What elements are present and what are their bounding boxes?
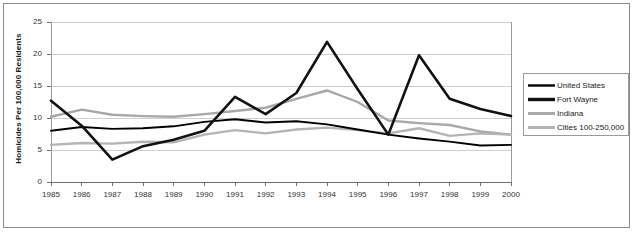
x-tick-label-1992: 1992: [249, 190, 283, 199]
y-tick-label-5: 5: [20, 145, 42, 154]
legend-label-indiana: Indiana: [557, 109, 583, 118]
x-tick-label-1993: 1993: [279, 190, 313, 199]
x-tick-label-1986: 1986: [65, 190, 99, 199]
legend-swatch-indiana: [528, 108, 555, 119]
x-tick-label-1987: 1987: [95, 190, 129, 199]
y-tick-label-20: 20: [20, 49, 42, 58]
y-tick-label-10: 10: [20, 113, 42, 122]
y-tick-label-25: 25: [20, 17, 42, 26]
y-tick-label-15: 15: [20, 81, 42, 90]
legend-item-united-states: United States: [528, 78, 625, 92]
x-tick-label-1999: 1999: [463, 190, 497, 199]
legend-label-united-states: United States: [557, 81, 605, 90]
series-line-cities-100-250-000: [51, 128, 511, 145]
legend-swatch-united-states: [528, 80, 555, 91]
chart-legend: United States Fort Wayne Indiana Cities …: [523, 73, 629, 136]
legend-item-indiana: Indiana: [528, 106, 625, 120]
x-tick-label-1995: 1995: [341, 190, 375, 199]
x-tick-label-1988: 1988: [126, 190, 160, 199]
x-tick-label-1997: 1997: [402, 190, 436, 199]
y-tick-label-0: 0: [20, 177, 42, 186]
x-tick-label-2000: 2000: [494, 190, 528, 199]
y-axis-title: Homicides Per 100,000 Residents: [14, 19, 23, 179]
x-tick-label-1989: 1989: [157, 190, 191, 199]
legend-label-fort-wayne: Fort Wayne: [557, 95, 598, 104]
x-tick-label-1996: 1996: [371, 190, 405, 199]
legend-swatch-fort-wayne: [528, 94, 555, 105]
x-tick-label-1991: 1991: [218, 190, 252, 199]
x-tick-label-1990: 1990: [187, 190, 221, 199]
legend-swatch-cities: [528, 122, 555, 133]
legend-label-cities: Cities 100-250,000: [557, 123, 624, 132]
chart-figure: Homicides Per 100,000 Residents 05101520…: [0, 0, 635, 233]
x-tick-label-1998: 1998: [433, 190, 467, 199]
legend-item-cities: Cities 100-250,000: [528, 120, 625, 134]
x-tick-label-1994: 1994: [310, 190, 344, 199]
legend-item-fort-wayne: Fort Wayne: [528, 92, 625, 106]
x-tick-label-1985: 1985: [34, 190, 68, 199]
